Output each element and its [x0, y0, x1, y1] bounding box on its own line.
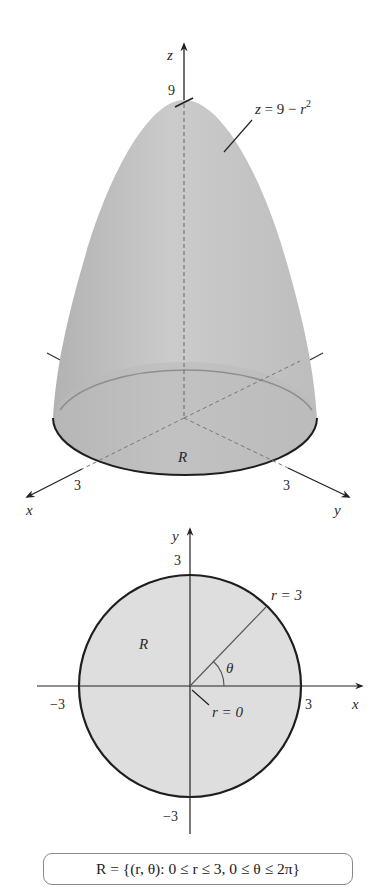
equation-exponent: 2 — [306, 98, 311, 109]
x-tick-pos-label: 3 — [305, 697, 312, 712]
z-tick-label: 9 — [168, 83, 175, 98]
y-tick-neg-label: −3 — [163, 809, 178, 824]
x-tick-neg-label: −3 — [50, 697, 65, 712]
region-label-2d: R — [138, 636, 148, 652]
surface-equation: z = 9 − r2 — [254, 98, 311, 117]
surface-plot: z 9 3 x 3 y R z = 9 − r2 — [25, 44, 349, 518]
region-plot: y 3 −3 −3 3 x R θ r = 3 r = 0 — [37, 528, 362, 834]
caption-text: R = {(r, θ): 0 ≤ r ≤ 3, 0 ≤ θ ≤ 2π} — [96, 860, 300, 878]
y-tick-pos-label: 3 — [174, 553, 181, 568]
z-axis-label: z — [166, 47, 173, 63]
x-axis-label: x — [25, 502, 33, 518]
y-axis-label: y — [332, 502, 341, 518]
x-axis-label-2d: x — [351, 696, 359, 712]
y-axis-label-2d: y — [170, 528, 179, 544]
y-tick-label: 3 — [283, 478, 290, 493]
angle-label: θ — [226, 660, 234, 676]
inner-radius-label: r = 0 — [212, 704, 243, 720]
region-definition-caption: R = {(r, θ): 0 ≤ r ≤ 3, 0 ≤ θ ≤ 2π} — [43, 853, 353, 885]
x-tick-label: 3 — [74, 478, 81, 493]
outer-radius-label: r = 3 — [271, 587, 302, 603]
region-label: R — [177, 449, 187, 465]
diagram-canvas: z 9 3 x 3 y R z = 9 − r2 y 3 −3 −3 — [0, 0, 385, 889]
equation-mid: = 9 − — [261, 101, 300, 117]
y-axis — [288, 468, 349, 497]
